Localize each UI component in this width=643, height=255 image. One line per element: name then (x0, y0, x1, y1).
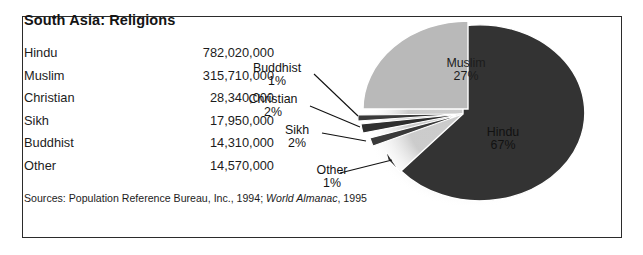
pie-label-christian: Christian 2% (234, 93, 312, 120)
table-row: Muslim 315,710,000 (24, 65, 274, 88)
row-label: Hindu (24, 42, 57, 65)
row-label: Muslim (24, 65, 65, 88)
row-label: Buddhist (24, 132, 74, 155)
pie-label-buddhist: Buddhist 1% (240, 62, 314, 89)
row-label: Christian (24, 87, 75, 110)
pie-label-hindu: Hindu 67% (468, 126, 538, 153)
row-value: 14,570,000 (210, 155, 274, 178)
pie-label-other: Other 1% (304, 164, 360, 191)
sources-prefix: Sources: Population Reference Bureau, In… (24, 192, 266, 204)
row-value: 14,310,000 (210, 132, 274, 155)
row-label: Sikh (24, 110, 49, 133)
table-row: Other 14,570,000 (24, 155, 274, 178)
table-row: Buddhist 14,310,000 (24, 132, 274, 155)
pie-labels: Muslim 27% Hindu 67% Buddhist 1% Christi… (300, 2, 600, 220)
pie-label-muslim: Muslim 27% (426, 57, 506, 84)
pie-chart: Muslim 27% Hindu 67% Buddhist 1% Christi… (300, 2, 600, 220)
row-label: Other (24, 155, 56, 178)
pie-label-sikh: Sikh 2% (272, 124, 322, 151)
page-title: South Asia: Religions (24, 12, 175, 28)
table-row: Hindu 782,020,000 (24, 42, 274, 65)
